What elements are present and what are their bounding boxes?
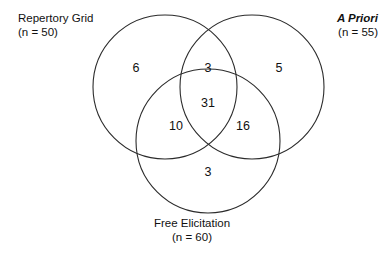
region-count-repertory-grid-and-free-elicitation: 10 [169,119,183,133]
region-count-a-priori-only: 5 [276,61,283,75]
region-count-all-three: 31 [201,96,215,110]
region-count-a-priori-and-free-elicitation: 16 [236,119,250,133]
set-label-free-elicitation-count: (n = 60) [0,230,384,244]
set-label-repertory-grid-count: (n = 50) [18,25,93,39]
region-count-repertory-grid-and-a-priori: 3 [205,61,212,75]
region-count-repertory-grid-only: 6 [133,61,140,75]
set-label-repertory-grid: Repertory Grid (n = 50) [18,11,93,39]
venn-diagram-figure: 6 3 5 31 10 16 3 Repertory Grid (n = 50)… [0,0,384,261]
set-label-a-priori-count: (n = 55) [337,25,378,39]
region-count-free-elicitation-only: 3 [205,165,212,179]
set-label-a-priori: A Priori (n = 55) [337,11,378,39]
set-label-free-elicitation-name: Free Elicitation [0,216,384,230]
venn-circle-a-priori [180,15,324,159]
set-label-repertory-grid-name: Repertory Grid [18,11,93,25]
set-label-a-priori-name: A Priori [337,11,378,25]
venn-circle-free-elicitation [136,69,280,213]
set-label-free-elicitation: Free Elicitation (n = 60) [0,216,384,244]
venn-circle-repertory-grid [93,15,237,159]
